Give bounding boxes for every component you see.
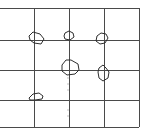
grid-lines	[0, 8, 140, 128]
blob-6-shape	[29, 93, 43, 100]
center-axis-ticks	[67, 78, 69, 116]
blob-1-shape	[29, 32, 44, 44]
blob-5-shape	[98, 65, 109, 81]
blob-4-shape	[62, 60, 79, 75]
blob-3-shape	[96, 33, 108, 44]
sketch-grid-diagram	[0, 0, 146, 137]
